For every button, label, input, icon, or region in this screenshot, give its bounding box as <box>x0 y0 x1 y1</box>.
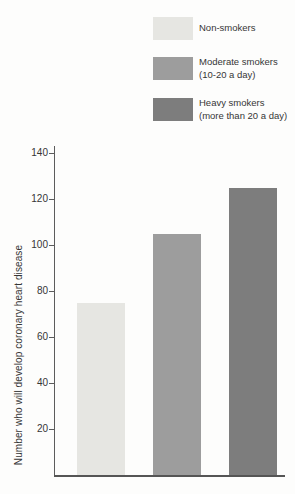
y-tick-mark <box>49 337 54 338</box>
y-axis-line <box>54 146 55 476</box>
y-tick-mark <box>49 291 54 292</box>
y-tick-label: 60 <box>20 332 48 342</box>
y-tick-mark <box>49 199 54 200</box>
y-tick-label: 120 <box>20 194 48 204</box>
chart-figure: Non-smokersModerate smokers(10-20 a day)… <box>0 0 295 494</box>
y-tick-label: 20 <box>20 424 48 434</box>
y-tick-mark <box>49 245 54 246</box>
y-tick-label: 80 <box>20 286 48 296</box>
y-tick-mark <box>49 383 54 384</box>
bar-1 <box>77 303 125 476</box>
bar-chart: Number who will develop coronary heart d… <box>0 0 295 494</box>
y-tick-label: 100 <box>20 240 48 250</box>
y-tick-mark <box>49 153 54 154</box>
y-tick-mark <box>49 429 54 430</box>
x-axis-baseline <box>54 475 285 477</box>
bar-2 <box>153 234 201 476</box>
y-tick-label: 40 <box>20 378 48 388</box>
bar-3 <box>229 188 277 476</box>
y-tick-label: 140 <box>20 148 48 158</box>
